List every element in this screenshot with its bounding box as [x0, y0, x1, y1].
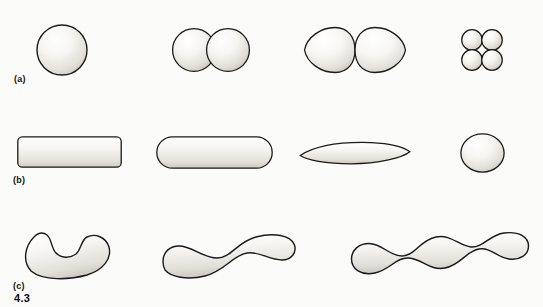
shape-round-ended-rod [156, 136, 273, 169]
shape-spirillum-multi-wave [349, 226, 531, 280]
shape-square-ended-rod [17, 136, 122, 168]
shape-fusiform-rod [299, 141, 411, 165]
shape-vibrio-comma-cell [21, 231, 113, 279]
figure-canvas: (a) [0, 0, 543, 307]
row-label-a: (a) [14, 74, 26, 84]
shape-diplococcus-pair [172, 27, 250, 73]
shape-lemon-shaped-diplococcus [303, 26, 407, 74]
shape-spirillum-one-wave [161, 231, 297, 281]
row-label-c: (c) [13, 281, 25, 291]
shape-coccobacillus [460, 133, 505, 173]
shape-coccus-tetrad [461, 29, 503, 71]
figure-number: 4.3 [14, 292, 30, 304]
row-label-b: (b) [13, 175, 25, 185]
shape-single-coccus [36, 24, 88, 76]
